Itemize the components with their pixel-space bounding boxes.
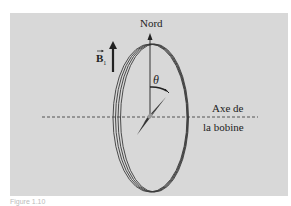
north-arrow-icon xyxy=(148,33,153,40)
coil-turn xyxy=(121,44,189,192)
north-label: Nord xyxy=(140,17,163,29)
coil-diagram xyxy=(0,0,291,206)
figure-caption: Figure 1.10 xyxy=(10,198,45,205)
theta-label: θ xyxy=(153,74,159,86)
field-label: B1 xyxy=(96,52,106,69)
field-arrow-icon xyxy=(109,41,117,49)
compass-needle xyxy=(137,97,166,135)
theta-arc xyxy=(150,87,167,91)
axis-label-line2: la bobine xyxy=(203,121,244,133)
field-subscript: 1 xyxy=(103,60,106,66)
axis-label-line1: Axe de xyxy=(212,102,243,114)
coil-turn xyxy=(118,44,188,192)
